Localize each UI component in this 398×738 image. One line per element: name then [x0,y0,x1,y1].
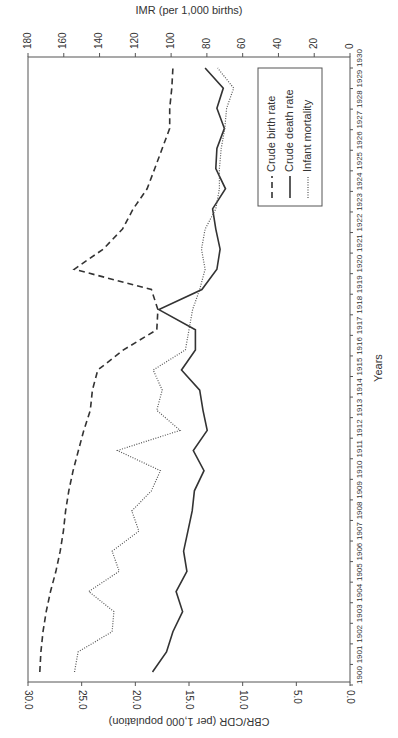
right-axis-tick-label: 180 [22,32,33,49]
left-axis-tick-label: 15.0 [184,690,195,710]
year-tick-label: 1900 [355,666,364,684]
year-tick-label: 1915 [355,357,364,375]
year-tick-label: 1908 [355,501,364,519]
left-axis-label: CBR/CDR (per 1,000 population) [109,716,270,728]
year-tick-label: 1907 [355,522,364,540]
right-axis-tick-label: 100 [165,32,176,49]
year-tick-label: 1913 [355,398,364,416]
right-axis-label: IMR (per 1,000 births) [136,4,243,16]
chart: 0.05.010.015.020.025.030.0CBR/CDR (per 1… [0,0,398,738]
right-axis-tick-label: 160 [57,32,68,49]
year-tick-label: 1902 [355,624,364,642]
year-tick-label: 1916 [355,336,364,354]
x-axis-label: Years [372,354,384,382]
year-tick-label: 1922 [355,213,364,231]
year-tick-label: 1926 [355,131,364,149]
year-tick-label: 1912 [355,419,364,437]
right-axis-tick-label: 120 [129,32,140,49]
year-tick-label: 1924 [355,172,364,190]
year-tick-label: 1921 [355,234,364,252]
series-line-crude-birth-rate [40,68,173,672]
series-line-crude-death-rate [153,68,226,672]
year-tick-label: 1910 [355,460,364,478]
year-tick-label: 1906 [355,542,364,560]
left-axis-tick-label: 20.0 [131,690,142,710]
left-axis-tick-label: 5.0 [292,690,303,704]
left-axis-tick-label: 0.0 [345,690,356,704]
right-axis-tick-label: 40 [272,37,283,49]
right-axis-tick-label: 20 [308,37,319,49]
year-tick-label: 1929 [355,69,364,87]
year-tick-label: 1903 [355,604,364,622]
year-tick-label: 1911 [355,440,364,458]
year-tick-label: 1923 [355,193,364,211]
right-axis-tick-label: 0 [344,43,355,49]
year-tick-label: 1909 [355,480,364,498]
year-tick-label: 1920 [355,254,364,272]
legend-entry: Crude death rate [283,89,295,172]
year-tick-label: 1917 [355,316,364,334]
left-axis-tick-label: 10.0 [238,690,249,710]
year-tick-label: 1930 [355,49,364,67]
year-tick-label: 1925 [355,151,364,169]
year-tick-label: 1928 [355,90,364,108]
right-axis-tick-label: 80 [201,37,212,49]
left-axis-tick-label: 25.0 [77,690,88,710]
legend-entry: Infant mortality [301,99,313,172]
year-tick-label: 1914 [355,378,364,396]
left-axis-tick-label: 30.0 [23,690,34,710]
year-tick-label: 1919 [355,275,364,293]
right-axis-tick-label: 60 [236,37,247,49]
year-tick-label: 1927 [355,110,364,128]
series-line-infant-mortality [75,68,234,672]
year-tick-label: 1904 [355,583,364,601]
right-axis-tick-label: 140 [93,32,104,49]
year-tick-label: 1905 [355,563,364,581]
year-tick-label: 1901 [355,645,364,663]
legend-entry: Crude birth rate [265,96,277,172]
year-tick-label: 1918 [355,295,364,313]
